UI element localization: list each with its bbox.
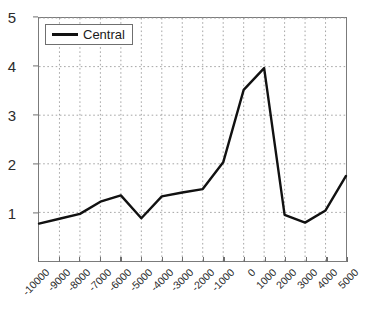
x-tick-label: 5000 <box>335 266 360 291</box>
x-tick-label: -3000 <box>168 266 195 293</box>
x-tick-label: -4000 <box>148 266 175 293</box>
x-tick-mark <box>38 257 39 262</box>
series-central-line <box>39 18 346 261</box>
x-tick-label: -7000 <box>86 266 113 293</box>
x-tick-label: 2000 <box>274 266 299 291</box>
plot-area <box>38 17 347 262</box>
legend[interactable]: Central <box>45 24 133 45</box>
chart-figure: 12345 -10000-9000-8000-7000-6000-5000-40… <box>0 0 365 315</box>
y-tick-label: 1 <box>0 205 16 222</box>
x-tick-mark <box>59 257 60 262</box>
x-tick-mark <box>347 257 348 262</box>
x-tick-mark <box>141 257 142 262</box>
y-tick-mark <box>33 212 38 213</box>
x-tick-label: -8000 <box>65 266 92 293</box>
y-tick-mark <box>33 163 38 164</box>
x-tick-label: -1000 <box>209 266 236 293</box>
x-tick-mark <box>120 257 121 262</box>
y-tick-mark <box>33 114 38 115</box>
y-tick-label: 2 <box>0 156 16 173</box>
x-tick-mark <box>244 257 245 262</box>
x-tick-label: 0 <box>245 266 258 279</box>
x-tick-mark <box>306 257 307 262</box>
legend-label-central: Central <box>83 28 125 41</box>
y-tick-label: 4 <box>0 58 16 75</box>
x-tick-mark <box>285 257 286 262</box>
y-tick-label: 5 <box>0 9 16 26</box>
x-tick-mark <box>79 257 80 262</box>
x-tick-mark <box>223 257 224 262</box>
y-tick-mark <box>33 16 38 17</box>
y-tick-label: 3 <box>0 107 16 124</box>
series-line-0 <box>39 68 346 224</box>
x-tick-label: -5000 <box>127 266 154 293</box>
x-tick-label: 1000 <box>253 266 278 291</box>
x-tick-label: -6000 <box>106 266 133 293</box>
x-tick-mark <box>203 257 204 262</box>
y-tick-mark <box>33 65 38 66</box>
x-tick-label: 4000 <box>315 266 340 291</box>
x-tick-mark <box>265 257 266 262</box>
x-tick-label: -2000 <box>189 266 216 293</box>
x-tick-mark <box>326 257 327 262</box>
legend-swatch-central <box>52 33 78 36</box>
x-tick-mark <box>162 257 163 262</box>
x-tick-mark <box>100 257 101 262</box>
x-tick-mark <box>182 257 183 262</box>
x-tick-label: -9000 <box>45 266 72 293</box>
x-tick-label: 3000 <box>294 266 319 291</box>
